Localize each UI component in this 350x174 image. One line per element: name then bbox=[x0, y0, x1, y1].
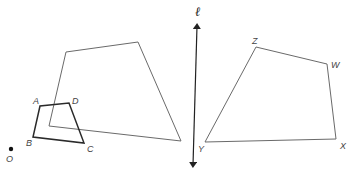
point-o-label: O bbox=[6, 154, 13, 164]
abcd-vertex-d-label: D bbox=[72, 96, 79, 106]
quadrilateral-abcd bbox=[33, 103, 84, 143]
abcd-vertex-a-label: A bbox=[32, 96, 39, 106]
wxyz-vertex-y-label: Y bbox=[198, 144, 205, 154]
wxyz-vertex-labels: ZWXY bbox=[198, 36, 347, 154]
wxyz-vertex-x-label: X bbox=[339, 141, 347, 151]
wxyz-vertex-w-label: W bbox=[331, 60, 341, 70]
abcd-vertex-c-label: C bbox=[87, 144, 94, 154]
abcd-vertex-b-label: B bbox=[26, 138, 32, 148]
quadrilateral-wxyz bbox=[205, 47, 336, 142]
geometry-figure: ℓ O ABCD ZWXY bbox=[0, 0, 350, 174]
line-l-label: ℓ bbox=[195, 4, 201, 19]
large-quadrilateral bbox=[49, 42, 181, 141]
line-l bbox=[193, 26, 197, 165]
center-point-o bbox=[9, 147, 13, 151]
wxyz-vertex-z-label: Z bbox=[251, 36, 258, 46]
